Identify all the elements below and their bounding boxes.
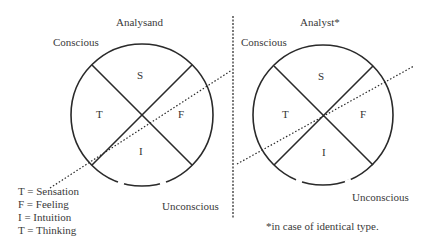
legend-item: F = Feeling [18,198,79,211]
analysand-title: Analysand [116,16,163,28]
legend-item: I = Intuition [18,211,79,224]
analysand-quadrant-t: T [96,108,103,120]
analysand-quadrant-f: F [178,108,184,120]
analyst-quadrant-t: T [282,108,289,120]
footnote: *in case of identical type. [266,220,379,232]
analyst-title: Analyst* [300,16,340,28]
analysand-quadrant-s: S [137,69,143,81]
analysand-circle-diagram [50,44,232,188]
analyst-quadrant-s: S [318,70,324,82]
analyst-unconscious-label: Unconscious [352,191,409,203]
legend-item: T = Thinking [18,224,79,237]
analysand-conscious-label: Conscious [53,36,99,48]
legend-item: T = Sensation [18,185,79,198]
analyst-quadrant-i: I [322,146,326,158]
analyst-circle-diagram [237,45,414,185]
function-legend: T = Sensation F = Feeling I = Intuition … [18,185,79,237]
analyst-quadrant-f: F [360,108,366,120]
analysand-unconscious-label: Unconscious [162,200,219,212]
analysand-quadrant-i: I [139,145,143,157]
analyst-conscious-label: Conscious [241,36,287,48]
